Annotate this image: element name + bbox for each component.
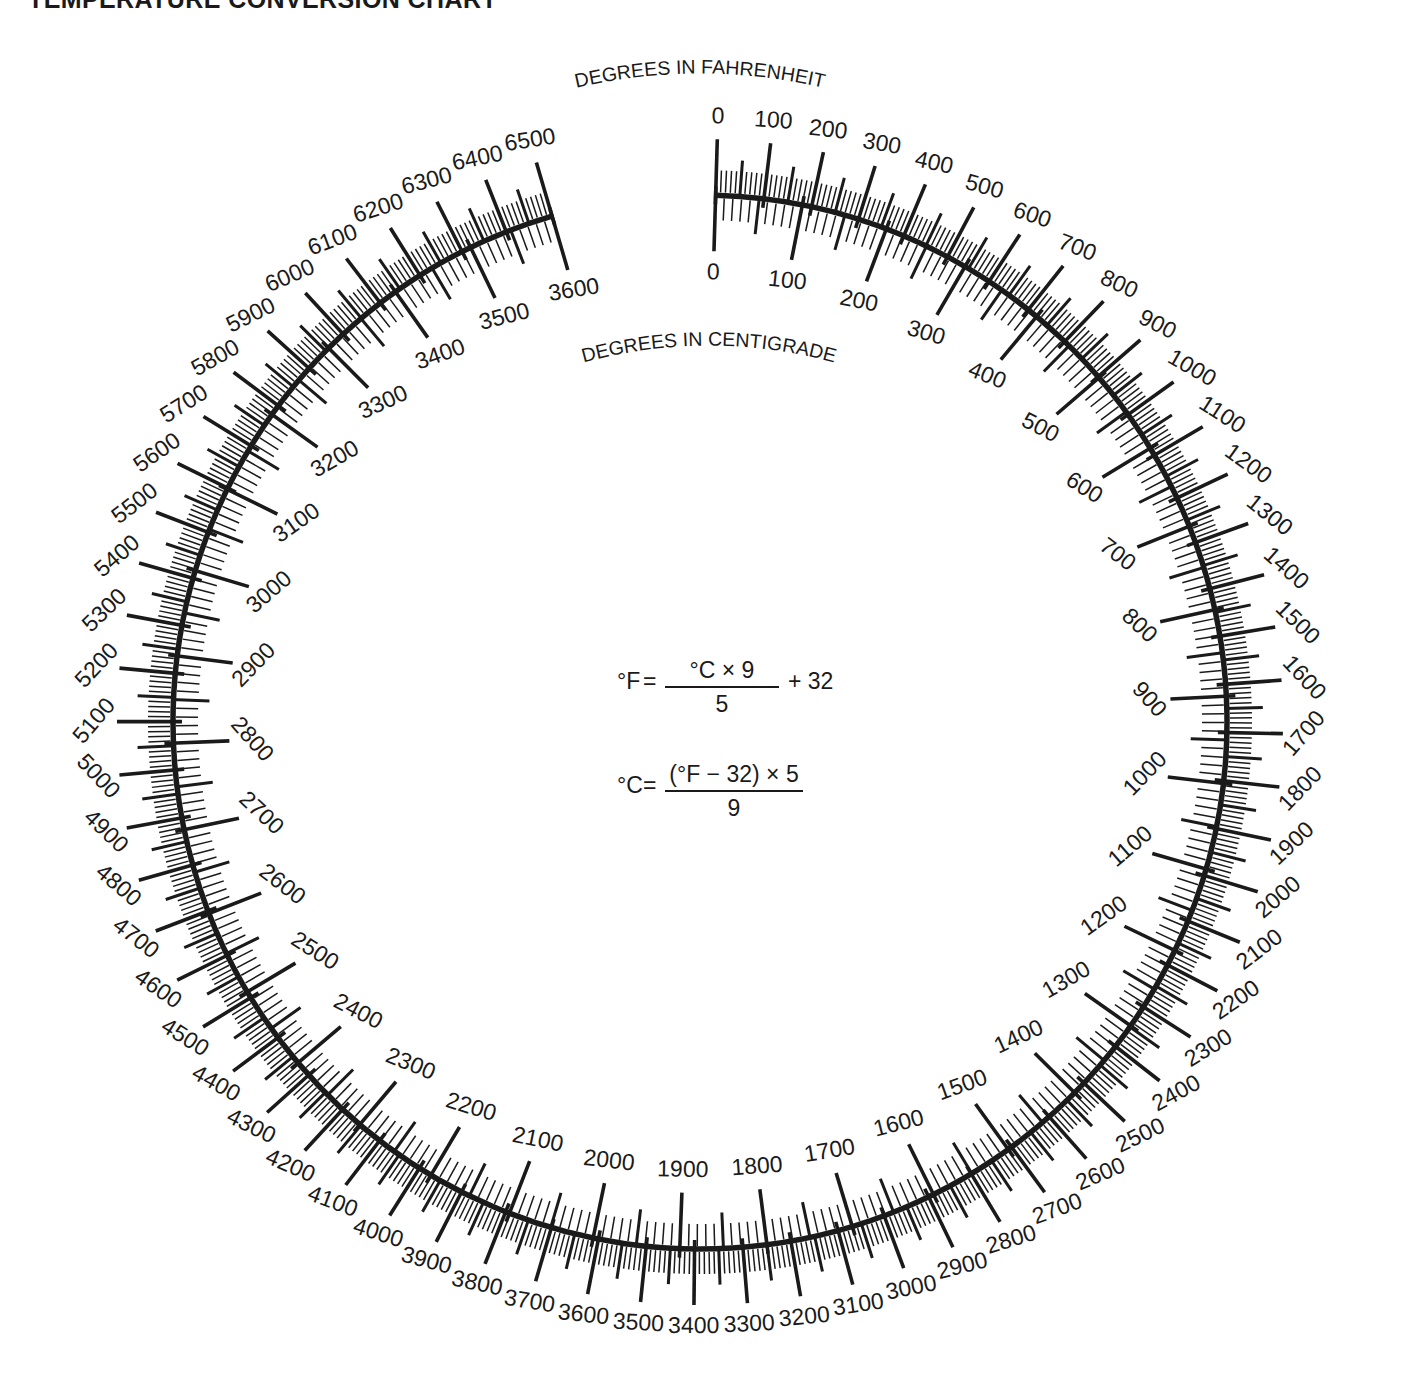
centigrade-minor-tick	[1063, 360, 1079, 375]
fahrenheit-minor-tick	[156, 626, 178, 630]
fahrenheit-minor-tick	[149, 756, 171, 757]
fahrenheit-minor-tick	[154, 641, 176, 644]
fahrenheit-minor-tick	[1093, 1078, 1109, 1093]
centigrade-minor-tick	[426, 275, 438, 294]
fahrenheit-minor-tick	[459, 1199, 469, 1219]
centigrade-minor-tick	[846, 221, 852, 242]
centigrade-minor-tick	[449, 262, 460, 281]
fahrenheit-minor-tick	[774, 175, 777, 197]
centigrade-minor-tick	[1159, 925, 1179, 934]
fahrenheit-scale-label: 1700	[1277, 705, 1330, 761]
fahrenheit-minor-tick	[634, 1248, 637, 1270]
fahrenheit-minor-tick	[769, 175, 772, 197]
centigrade-minor-tick	[1195, 805, 1217, 809]
centigrade-scale-label: 3600	[546, 272, 601, 306]
centigrade-medium-tick	[636, 1209, 641, 1247]
centigrade-scale-label: 100	[767, 265, 808, 295]
centigrade-minor-tick	[496, 239, 505, 259]
fahrenheit-scale-label: 5400	[89, 529, 145, 582]
centigrade-scale-label: 2000	[582, 1144, 636, 1176]
fahrenheit-scale-label: 1400	[1259, 541, 1315, 594]
fahrenheit-minor-tick	[319, 323, 334, 339]
fahrenheit-minor-tick	[755, 173, 757, 195]
centigrade-scale-label: 600	[1062, 466, 1108, 508]
centigrade-minor-tick	[915, 1176, 924, 1196]
fahrenheit-minor-tick	[333, 1118, 348, 1134]
fahrenheit-minor-tick	[1211, 862, 1232, 868]
fahrenheit-scale-label: 2000	[1250, 870, 1306, 923]
fahrenheit-minor-tick	[150, 676, 172, 678]
centigrade-medium-tick	[360, 317, 384, 346]
fahrenheit-minor-tick	[1110, 372, 1127, 386]
fahrenheit-scale-label: 1100	[1195, 390, 1251, 439]
conversion-dial-svg: TEMPERATURE CONVERSION CHART 01002003004…	[0, 0, 1418, 1396]
centigrade-minor-tick	[527, 1196, 534, 1217]
fahrenheit-minor-tick	[1222, 815, 1244, 819]
fahrenheit-minor-tick	[921, 1204, 930, 1224]
formula-f-from-c: °F = °C × 9 5 + 32	[617, 657, 833, 717]
centigrade-label-layer: 0100200300400500600700800900100011001200…	[226, 258, 1172, 1182]
fahrenheit-scale-label: 5100	[67, 692, 120, 748]
centigrade-minor-tick	[203, 555, 224, 562]
centigrade-medium-tick	[1187, 652, 1225, 657]
centigrade-minor-tick	[1172, 544, 1193, 551]
fahrenheit-minor-tick	[1217, 602, 1238, 607]
fahrenheit-minor-tick	[1219, 612, 1241, 616]
centigrade-minor-tick	[195, 857, 216, 863]
formula-f-tail: + 32	[788, 668, 833, 694]
fahrenheit-label-layer: 0100200300400500600700800900100011001200…	[67, 102, 1332, 1338]
centigrade-minor-tick	[908, 245, 917, 265]
fahrenheit-minor-tick	[750, 172, 752, 194]
centigrade-minor-tick	[1196, 797, 1218, 800]
fahrenheit-minor-tick	[377, 1152, 390, 1170]
fahrenheit-minor-tick	[160, 833, 182, 838]
centigrade-minor-tick	[1192, 619, 1214, 623]
fahrenheit-scale-label: 5300	[76, 583, 131, 637]
fahrenheit-minor-tick	[155, 809, 177, 813]
centigrade-minor-tick	[853, 1200, 860, 1221]
fahrenheit-scale-label: 2200	[1207, 974, 1264, 1024]
fahrenheit-scale-label: 1500	[1271, 595, 1326, 649]
fahrenheit-medium-tick	[1099, 1064, 1128, 1089]
fahrenheit-scale-label: 2800	[983, 1219, 1040, 1259]
fahrenheit-medium-tick	[138, 746, 176, 748]
fahrenheit-minor-tick	[1218, 834, 1240, 839]
fahrenheit-minor-tick	[1227, 776, 1249, 778]
fahrenheit-minor-tick	[238, 420, 256, 432]
fahrenheit-minor-tick	[733, 1251, 734, 1273]
fahrenheit-minor-tick	[1094, 353, 1110, 368]
fahrenheit-medium-tick	[1029, 1131, 1053, 1161]
fahrenheit-scale-label: 800	[1097, 264, 1143, 303]
fahrenheit-minor-tick	[165, 586, 186, 591]
fahrenheit-scale-label: 3800	[450, 1264, 505, 1300]
centigrade-minor-tick	[1177, 560, 1198, 567]
fahrenheit-minor-tick	[160, 606, 182, 611]
fahrenheit-medium-tick	[517, 189, 529, 225]
centigrade-medium-tick	[1169, 567, 1205, 578]
fahrenheit-minor-tick	[936, 228, 946, 248]
fahrenheit-minor-tick	[1220, 824, 1242, 828]
centigrade-minor-tick	[189, 833, 210, 838]
centigrade-minor-tick	[797, 1215, 801, 1237]
centigrade-scale-label: 3300	[354, 379, 411, 424]
fahrenheit-minor-tick	[1222, 627, 1244, 631]
fahrenheit-minor-tick	[1041, 300, 1055, 317]
fahrenheit-minor-tick	[149, 751, 171, 752]
centigrade-minor-tick	[1001, 303, 1014, 321]
centigrade-minor-tick	[343, 338, 358, 354]
fahrenheit-minor-tick	[664, 1251, 665, 1273]
centigrade-minor-tick	[765, 202, 768, 224]
fahrenheit-minor-tick	[1228, 767, 1250, 769]
fahrenheit-medium-tick	[300, 1091, 327, 1118]
fahrenheit-minor-tick	[1221, 820, 1243, 824]
fahrenheit-scale-label: 3600	[557, 1298, 611, 1329]
centigrade-minor-tick	[238, 475, 257, 485]
centigrade-minor-tick	[945, 1160, 956, 1179]
fahrenheit-minor-tick	[357, 1137, 371, 1154]
fahrenheit-minor-tick	[148, 736, 170, 737]
fahrenheit-scale-label: 6400	[450, 139, 505, 175]
fahrenheit-minor-tick	[807, 181, 811, 203]
centigrade-minor-tick	[463, 1170, 473, 1190]
fahrenheit-minor-tick	[149, 691, 171, 692]
fahrenheit-minor-tick	[151, 780, 173, 782]
